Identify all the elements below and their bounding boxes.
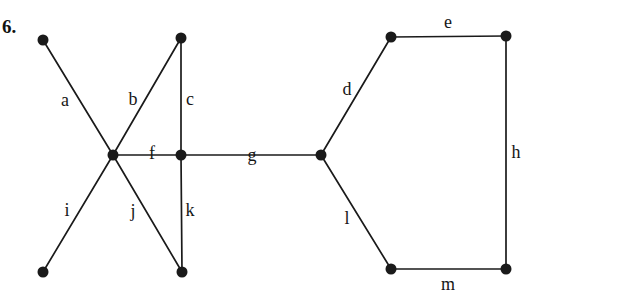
graph-vertex-bottom-left <box>38 267 49 278</box>
graph-edge-d <box>321 37 391 155</box>
edge-label-e: e <box>444 13 452 31</box>
edge-label-i: i <box>64 201 69 219</box>
edge-label-g: g <box>248 146 257 164</box>
graph-edge-e <box>391 36 506 37</box>
graph-vertex-top-middle <box>176 33 187 44</box>
edge-label-m: m <box>441 275 455 293</box>
edge-label-l: l <box>344 209 349 227</box>
graph-edge-b <box>113 38 181 155</box>
edge-label-h: h <box>512 143 521 161</box>
graph-vertex-hexagon-bottom-right <box>501 264 512 275</box>
graph-edge-j <box>113 155 182 272</box>
edge-label-d: d <box>343 80 352 98</box>
graph-figure: 6. abcdefghijklm <box>0 0 622 293</box>
edge-label-k: k <box>186 201 195 219</box>
edge-label-j: j <box>130 202 135 220</box>
graph-drawing <box>0 0 622 293</box>
graph-edge-i <box>43 155 113 272</box>
graph-edge-k <box>181 155 182 272</box>
edge-label-b: b <box>129 90 138 108</box>
graph-vertex-top-left <box>38 35 49 46</box>
graph-vertex-left-hub <box>108 150 119 161</box>
edge-label-a: a <box>61 91 69 109</box>
graph-edge-a <box>43 40 113 155</box>
graph-edge-l <box>321 155 391 269</box>
edge-label-f: f <box>149 144 155 162</box>
edge-label-c: c <box>186 90 194 108</box>
graph-vertex-right-hub <box>316 150 327 161</box>
graph-vertex-hexagon-bottom-left <box>386 264 397 275</box>
vertex-dots <box>38 31 512 278</box>
graph-vertex-hexagon-top-left <box>386 32 397 43</box>
graph-vertex-bottom-middle <box>177 267 188 278</box>
graph-vertex-hexagon-top-right <box>501 31 512 42</box>
graph-vertex-center <box>176 150 187 161</box>
